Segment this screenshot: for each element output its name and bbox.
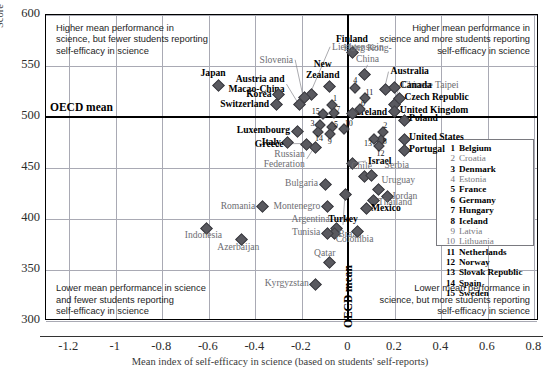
data-point-label: Mexico xyxy=(371,203,401,213)
country-number-legend: 1Belgium2Croatia3Denmark4Estonia5France6… xyxy=(436,139,534,246)
data-point-label: Colombia xyxy=(295,234,415,244)
legend-item: 12Norway xyxy=(442,257,530,267)
data-point-label: Slovenia xyxy=(0,55,293,65)
oecd-mean-vertical-label: OECD mean xyxy=(342,265,354,328)
data-point-label: Czech Republic xyxy=(404,92,468,102)
legend-item: 11Netherlands xyxy=(442,247,530,257)
data-point-label: Poland xyxy=(409,113,438,123)
legend-item-label: Latvia xyxy=(459,226,482,236)
legend-item-number: 8 xyxy=(442,216,455,226)
legend-item-number: 2 xyxy=(442,153,455,163)
legend-item: 13Slovak Republic xyxy=(442,267,530,277)
legend-item-number: 3 xyxy=(442,164,455,174)
data-point-label: Azerbaijan xyxy=(178,242,298,252)
data-point-label: Romania xyxy=(0,201,255,211)
legend-item-label: Norway xyxy=(459,257,490,267)
data-point-label: Canada xyxy=(400,80,432,90)
data-point-number-label: 6 xyxy=(361,99,365,108)
legend-item: 10Lithuania xyxy=(442,236,530,246)
data-point-number-label: 1 xyxy=(333,94,337,103)
legend-item-number: 5 xyxy=(442,184,455,194)
data-point-number-label: 12 xyxy=(377,149,385,158)
y-tick-label: 300 xyxy=(0,312,40,327)
data-point-label: Portugal xyxy=(409,144,445,154)
legend-item: 1Belgium xyxy=(442,143,530,153)
legend-item-label: Netherlands xyxy=(459,247,507,257)
data-point-label: Kyrgyzstan xyxy=(0,278,309,288)
y-gridline xyxy=(46,15,537,16)
legend-item-label: Belgium xyxy=(459,143,491,153)
legend-item-label: Germany xyxy=(459,195,496,205)
data-point-label: Australia xyxy=(391,66,429,76)
legend-item-number: 7 xyxy=(442,205,455,215)
data-point-number-label: 10 xyxy=(345,119,353,128)
legend-item: 9Latvia xyxy=(442,226,530,236)
x-tick-label: 0.8 xyxy=(503,339,560,354)
data-point-label: Serbia xyxy=(385,160,410,170)
legend-item: 3Denmark xyxy=(442,164,530,174)
data-point-label: Bulgaria xyxy=(0,178,318,188)
legend-item-label: Slovak Republic xyxy=(459,267,522,277)
data-point-label: Luxembourg xyxy=(0,125,290,135)
y-tick-label: 350 xyxy=(0,261,40,276)
legend-item-label: Lithuania xyxy=(459,236,494,246)
x-gridline xyxy=(534,15,535,319)
legend-item: 4Estonia xyxy=(442,174,530,184)
legend-item-number: 11 xyxy=(442,247,455,257)
y-gridline xyxy=(46,321,537,322)
legend-item-number: 15 xyxy=(442,288,455,298)
data-point-number-label: 11 xyxy=(366,88,374,97)
legend-item: 15Sweden xyxy=(442,288,530,298)
legend-item: 14Spain xyxy=(442,278,530,288)
data-point-number-label: 14 xyxy=(315,134,323,143)
data-point-label: Switzerland xyxy=(0,99,269,109)
legend-item-number: 6 xyxy=(442,195,455,205)
x-axis-line xyxy=(40,336,543,337)
legend-item: 6Germany xyxy=(442,195,530,205)
legend-item-label: Croatia xyxy=(459,153,486,163)
legend-item-label: Sweden xyxy=(459,288,489,298)
legend-item-number: 12 xyxy=(442,257,455,267)
data-point-label: Argentina xyxy=(0,214,330,224)
legend-item-label: France xyxy=(459,184,486,194)
legend-item-number: 9 xyxy=(442,226,455,236)
legend-item-label: Estonia xyxy=(459,174,486,184)
chart-figure: Score Mean index of self-efficacy in sci… xyxy=(0,0,560,378)
legend-item: 2Croatia xyxy=(442,153,530,163)
data-point-number-label: 13 xyxy=(364,139,372,148)
legend-item: 7Hungary xyxy=(442,205,530,215)
data-point-label: United States xyxy=(409,132,464,142)
quadrant-note-top-left: Higher mean performance in science, but … xyxy=(56,23,208,57)
data-point-label: Hong Kong- China xyxy=(308,43,428,64)
x-axis-title: Mean index of self-efficacy in science (… xyxy=(0,356,560,367)
legend-item-number: 13 xyxy=(442,267,455,277)
data-point-number-label: 4 xyxy=(353,76,357,85)
data-point-label: Uruguay xyxy=(382,175,416,185)
y-tick-label: 600 xyxy=(0,6,40,21)
data-point-number-label: 3 xyxy=(310,119,314,128)
legend-item-number: 4 xyxy=(442,174,455,184)
oecd-mean-horizontal-line xyxy=(46,116,537,118)
data-point-label: Russian Federation xyxy=(0,149,305,170)
legend-item: 8Iceland xyxy=(442,216,530,226)
legend-item-label: Iceland xyxy=(459,216,488,226)
y-tick-label: 500 xyxy=(0,108,40,123)
data-point-number-label: 7 xyxy=(336,105,340,114)
data-point-number-label: 2 xyxy=(383,121,387,130)
legend-item-label: Denmark xyxy=(459,164,496,174)
data-point-number-label: 5 xyxy=(334,120,338,129)
legend-item-label: Spain xyxy=(459,278,481,288)
data-point-number-label: 9 xyxy=(328,137,332,146)
data-point-label: Greece xyxy=(0,139,283,149)
legend-item-number: 10 xyxy=(442,236,455,246)
data-point-number-label: 15 xyxy=(312,107,320,116)
legend-item-number: 14 xyxy=(442,278,455,288)
legend-item-label: Hungary xyxy=(459,205,494,215)
legend-item: 5France xyxy=(442,184,530,194)
